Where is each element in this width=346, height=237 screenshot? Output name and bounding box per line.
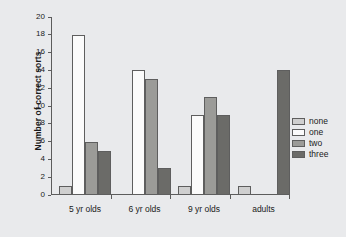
y-tick-label: 6 xyxy=(41,136,45,145)
legend-swatch-none xyxy=(292,118,305,125)
bar-5-yr-olds-three xyxy=(98,151,111,196)
bar-9-yr-olds-two xyxy=(204,97,217,195)
x-tick-4 xyxy=(289,195,290,199)
legend-swatch-two xyxy=(292,140,305,147)
bar-group-1 xyxy=(59,17,111,195)
y-tick-label: 18 xyxy=(36,29,45,38)
bar-6-yr-olds-one xyxy=(132,70,145,195)
bar-9-yr-olds-one xyxy=(191,115,204,195)
bar-5-yr-olds-two xyxy=(85,142,98,195)
y-tick-label: 2 xyxy=(41,172,45,181)
x-tick-2 xyxy=(170,195,171,199)
bar-adults-none xyxy=(238,186,251,195)
y-tick-label: 8 xyxy=(41,118,45,127)
bar-9-yr-olds-none xyxy=(178,186,191,195)
bar-6-yr-olds-three xyxy=(158,168,171,195)
bar-5-yr-olds-one xyxy=(72,35,85,195)
bar-group-3 xyxy=(178,17,230,195)
x-tick-3 xyxy=(230,195,231,199)
legend-swatch-one xyxy=(292,129,305,136)
bar-group-2 xyxy=(119,17,171,195)
y-tick-label: 16 xyxy=(36,47,45,56)
y-tick-label: 12 xyxy=(36,83,45,92)
legend: noneonetwothree xyxy=(292,116,328,159)
y-tick-label: 0 xyxy=(41,190,45,199)
y-tick-label: 14 xyxy=(36,65,45,74)
y-tick-label: 10 xyxy=(36,101,45,110)
legend-item-three[interactable]: three xyxy=(292,149,328,159)
legend-label-two: two xyxy=(309,139,322,148)
bar-chart-figure: Number of correct sorts 0246810121416182… xyxy=(0,0,346,237)
x-tick-1 xyxy=(111,195,112,199)
x-axis-label-4: adults xyxy=(224,204,304,214)
bar-groups: 5 yr olds6 yr olds9 yr oldsadults xyxy=(51,17,289,195)
legend-label-one: one xyxy=(309,128,323,137)
bar-9-yr-olds-three xyxy=(217,115,230,195)
bar-adults-three xyxy=(277,70,290,195)
legend-item-none[interactable]: none xyxy=(292,116,328,126)
legend-item-one[interactable]: one xyxy=(292,127,328,137)
legend-label-three: three xyxy=(309,150,328,159)
legend-label-none: none xyxy=(309,117,328,126)
bar-group-4 xyxy=(238,17,290,195)
legend-swatch-three xyxy=(292,151,305,158)
y-tick-label: 4 xyxy=(41,154,45,163)
plot-area: 02468101214161820 5 yr olds6 yr olds9 yr… xyxy=(51,17,289,195)
legend-item-two[interactable]: two xyxy=(292,138,328,148)
bar-6-yr-olds-two xyxy=(145,79,158,195)
y-tick-label: 20 xyxy=(36,12,45,21)
bar-5-yr-olds-none xyxy=(59,186,72,195)
